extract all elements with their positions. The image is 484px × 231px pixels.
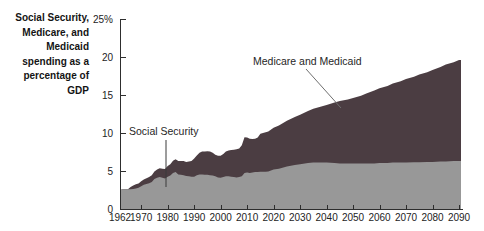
stacked-area-plot: 0510152025%19621970198019902000201020202… (0, 0, 484, 231)
x-tick-label: 2080 (421, 212, 444, 223)
x-tick-label: 2040 (315, 212, 338, 223)
x-tick-label: 2000 (210, 212, 233, 223)
x-tick-label: 1970 (130, 212, 153, 223)
x-tick-label: 2010 (236, 212, 259, 223)
medicare-medicaid-leader-line (306, 69, 341, 108)
x-tick-label: 2060 (368, 212, 391, 223)
y-tick-label: 25% (93, 14, 113, 25)
chart-figure: Social Security, Medicare, and Medicaid … (0, 0, 484, 231)
y-tick-label: 15 (102, 90, 114, 101)
y-tick-label: 20 (102, 52, 114, 63)
x-tick-label: 2030 (289, 212, 312, 223)
x-tick-label: 1990 (183, 212, 206, 223)
x-tick-label: 1980 (157, 212, 180, 223)
x-tick-label: 2050 (342, 212, 365, 223)
x-tick-label: 1962 (109, 212, 132, 223)
x-tick-label: 2020 (262, 212, 285, 223)
annotation-social-security: Social Security (129, 125, 198, 137)
annotation-medicare-medicaid: Medicare and Medicaid (253, 55, 362, 67)
x-tick-label: 2070 (395, 212, 418, 223)
y-tick-label: 5 (107, 166, 113, 177)
y-tick-label: 10 (102, 128, 114, 139)
x-tick-label: 2090 (448, 212, 471, 223)
